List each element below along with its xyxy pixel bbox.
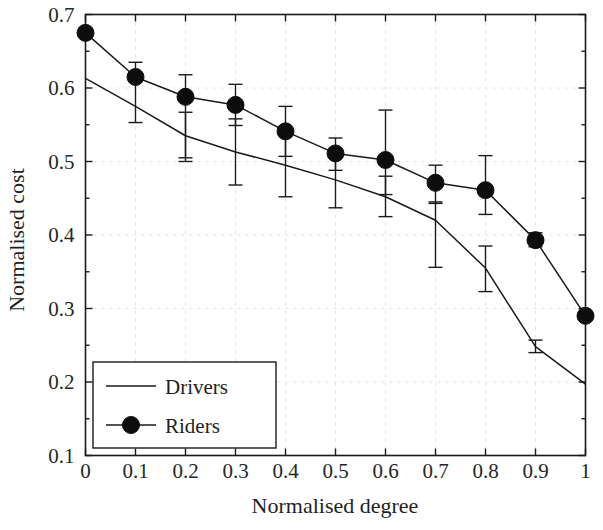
x-tick-label: 0.3 <box>222 459 248 483</box>
x-tick-label: 0.8 <box>472 459 498 483</box>
legend-label-riders: Riders <box>165 414 220 438</box>
y-tick-label: 0.2 <box>48 370 74 394</box>
x-tick-label: 0.7 <box>422 459 448 483</box>
data-point-marker <box>527 232 544 249</box>
legend-label-drivers: Drivers <box>165 375 228 399</box>
series-layer <box>77 24 594 384</box>
y-tick-label: 0.6 <box>48 76 74 100</box>
data-point-marker <box>327 145 344 162</box>
x-tick-label: 0.4 <box>272 459 299 483</box>
x-tick-label: 0 <box>80 459 91 483</box>
y-tick-label: 0.7 <box>48 3 74 27</box>
data-point-marker <box>177 88 194 105</box>
x-axis-title: Normalised degree <box>252 493 419 518</box>
line-chart-figure: 00.10.20.30.40.50.60.70.80.91 0.10.20.30… <box>0 0 603 530</box>
x-tick-labels: 00.10.20.30.40.50.60.70.80.91 <box>80 459 591 483</box>
data-point-marker <box>477 182 494 199</box>
data-point-marker <box>377 152 394 169</box>
y-axis-title: Normalised cost <box>4 168 29 312</box>
y-tick-labels: 0.10.20.30.40.50.60.7 <box>48 3 75 468</box>
data-point-marker <box>427 174 444 191</box>
data-point-marker <box>227 96 244 113</box>
data-point-marker <box>577 307 594 324</box>
data-point-marker <box>277 123 294 140</box>
y-tick-label: 0.5 <box>48 150 74 174</box>
y-tick-label: 0.1 <box>48 444 74 468</box>
data-point-marker <box>127 68 144 85</box>
x-tick-label: 0.1 <box>122 459 148 483</box>
chart-page: 00.10.20.30.40.50.60.70.80.91 0.10.20.30… <box>0 0 603 530</box>
x-tick-label: 0.2 <box>172 459 198 483</box>
x-tick-label: 0.5 <box>322 459 348 483</box>
legend: DriversRiders <box>93 362 276 448</box>
x-tick-label: 0.9 <box>522 459 548 483</box>
x-tick-label: 0.6 <box>372 459 398 483</box>
y-tick-label: 0.4 <box>48 223 75 247</box>
data-point-marker <box>77 24 94 41</box>
legend-swatch-marker <box>123 417 140 434</box>
x-tick-label: 1 <box>580 459 591 483</box>
error-bar <box>179 75 193 158</box>
y-tick-label: 0.3 <box>48 297 74 321</box>
